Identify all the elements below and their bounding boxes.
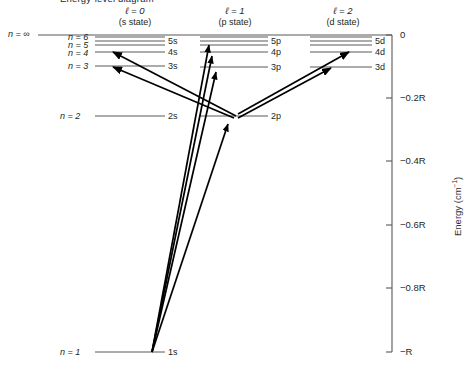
transition-arrows-to-d: [238, 52, 349, 118]
level-label-5p: 5p: [271, 37, 281, 46]
level-label-4p: 4p: [271, 48, 281, 57]
energy-axis-title-tail: ): [452, 177, 463, 180]
energy-axis-title: Energy (cm−1): [452, 177, 463, 236]
energy-axis-title-exponent: −1: [451, 180, 458, 188]
axis-tick-0.6R: −0.6R: [400, 220, 426, 230]
axis-tick-0: 0: [400, 30, 405, 40]
level-label-3d: 3d: [375, 63, 385, 72]
arrow-2p-to-3d: [238, 68, 331, 118]
level-label-3s: 3s: [168, 62, 178, 71]
level-label-5s: 5s: [168, 37, 178, 46]
energy-axis: [386, 35, 392, 352]
energy-level-diagram: Energy-level diagram ℓ = 0 (s state) ℓ =…: [0, 0, 468, 366]
n-label-4: n = 4: [68, 49, 88, 58]
level-label-4d: 4d: [375, 48, 385, 57]
axis-tick-0.2R: −0.2R: [400, 93, 426, 103]
arrow-2p-to-4d: [238, 52, 349, 114]
transition-arrows-from-1s: [152, 45, 228, 352]
level-label-2p: 2p: [271, 112, 281, 121]
arrow-1s-to-2p: [152, 124, 228, 352]
level-label-3p: 3p: [271, 63, 281, 72]
n-infinity-label: n = ∞: [8, 30, 30, 39]
n-label-3: n = 3: [68, 62, 88, 71]
axis-tick-0.8R: −0.8R: [400, 283, 426, 293]
level-label-1s: 1s: [168, 348, 178, 357]
energy-axis-title-main: Energy (cm: [452, 187, 463, 236]
n-label-1: n = 1: [60, 348, 80, 357]
axis-tick-0.4R: −0.4R: [400, 156, 426, 166]
level-label-2s: 2s: [168, 112, 178, 121]
arrow-1s-to-3p: [152, 72, 216, 352]
level-label-5d: 5d: [375, 37, 385, 46]
arrow-1s-to-5p: [152, 45, 209, 352]
axis-tick-R: −R: [400, 347, 412, 357]
level-label-4s: 4s: [168, 48, 178, 57]
n-label-2: n = 2: [60, 112, 80, 121]
level-lines-p: [200, 37, 268, 116]
level-lines-d: [310, 37, 372, 67]
